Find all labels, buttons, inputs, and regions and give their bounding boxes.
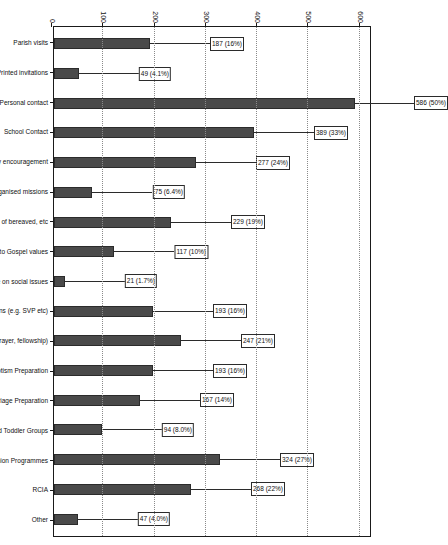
bar[interactable]	[54, 246, 114, 257]
category-tick-mark	[50, 132, 53, 133]
y-axis-tick-mark	[359, 23, 360, 27]
bar-value-callout: 247 (21%)	[181, 334, 275, 348]
bar[interactable]	[54, 335, 181, 346]
bar-value-label: 117 (10%)	[174, 245, 208, 259]
bar-value-callout: 324 (27%)	[220, 453, 314, 467]
bar-value-label: 229 (19%)	[231, 215, 265, 229]
callout-leader-line	[181, 340, 241, 341]
callout-leader-line	[65, 281, 125, 282]
bar-value-callout: 229 (19%)	[171, 215, 265, 229]
category-tick-mark	[50, 460, 53, 461]
category-tick-mark	[50, 72, 53, 73]
y-axis-tick-label: 400	[253, 3, 261, 23]
category-tick-mark	[50, 490, 53, 491]
category-tick-mark	[50, 221, 53, 222]
category-tick: Family encouragement	[0, 147, 53, 177]
bar[interactable]	[54, 424, 102, 435]
bar-value-callout: 193 (16%)	[153, 304, 247, 318]
y-axis-tick-mark	[102, 23, 103, 27]
bar[interactable]	[54, 454, 220, 465]
category-tick-label: Witness to Gospel values	[0, 248, 48, 256]
category-tick-label: Parish visits	[13, 39, 48, 47]
bar[interactable]	[54, 276, 65, 287]
category-tick: Printed invitations	[0, 58, 53, 88]
bar-value-callout: 193 (16%)	[153, 364, 247, 378]
category-tick-label: Family encouragement	[0, 158, 48, 166]
category-tick: Personal contact	[0, 88, 53, 118]
category-tick-mark	[50, 430, 53, 431]
category-tick-label: Small groups (prayer, fellowship)	[0, 337, 48, 345]
category-tick-label: The work of parish organisations (e.g. S…	[0, 307, 48, 315]
bar-value-label: 193 (16%)	[213, 304, 247, 318]
bar[interactable]	[54, 187, 92, 198]
y-axis-tick-mark	[307, 23, 308, 27]
callout-leader-line	[78, 519, 138, 520]
bar-value-label: 193 (16%)	[213, 364, 247, 378]
bar-value-callout: 21 (1.7%)	[65, 274, 157, 288]
category-tick-label: Printed invitations	[0, 69, 48, 77]
bar-value-label: 75 (6.4%)	[152, 185, 184, 199]
category-tick: Parish visits	[0, 28, 53, 58]
callout-leader-line	[355, 103, 415, 104]
category-tick-label: Mother and Toddler Groups	[0, 427, 48, 435]
category-tick-mark	[50, 400, 53, 401]
category-axis: Parish visitsPrinted invitationsPersonal…	[0, 26, 53, 537]
bar-value-label: 586 (50%)	[414, 96, 448, 110]
bar[interactable]	[54, 484, 191, 495]
bar-value-label: 187 (16%)	[210, 37, 244, 51]
category-tick-label: Personal contact	[0, 99, 48, 107]
bar[interactable]	[54, 157, 196, 168]
category-tick: Care of bereaved, etc	[0, 207, 53, 237]
category-tick-mark	[50, 102, 53, 103]
category-tick-label: First Communion Programmes	[0, 457, 48, 465]
category-tick-label: Organised missions	[0, 188, 48, 196]
category-tick: First Communion Programmes	[0, 446, 53, 476]
bar-value-callout: 49 (4.1%)	[79, 67, 171, 81]
bar-value-label: 277 (24%)	[256, 156, 290, 170]
category-tick: RCIA	[0, 475, 53, 505]
category-tick-label: School Contact	[4, 128, 48, 136]
bar-value-callout: 47 (4.0%)	[78, 512, 170, 526]
plot-area: 187 (16%)49 (4.1%)586 (50%)389 (33%)277 …	[54, 27, 370, 536]
gridline	[154, 27, 155, 536]
bar-value-label: 21 (1.7%)	[125, 274, 157, 288]
category-tick-mark	[50, 251, 53, 252]
bar[interactable]	[54, 68, 79, 79]
bar-value-label: 94 (8.0%)	[162, 423, 194, 437]
y-axis-tick-label: 200	[151, 3, 159, 23]
bar[interactable]	[54, 306, 153, 317]
category-tick: Witness to Gospel values	[0, 237, 53, 267]
bar-value-label: 324 (27%)	[280, 453, 314, 467]
callout-leader-line	[79, 73, 139, 74]
bar[interactable]	[54, 395, 140, 406]
category-tick-label: Other	[32, 516, 48, 524]
gridline	[102, 27, 103, 536]
y-axis-tick-label: 100	[99, 3, 107, 23]
callout-leader-line	[150, 43, 210, 44]
y-axis-tick-mark	[205, 23, 206, 27]
category-tick-mark	[50, 341, 53, 342]
category-tick-mark	[50, 520, 53, 521]
plot-frame: 187 (16%)49 (4.1%)586 (50%)389 (33%)277 …	[53, 26, 371, 537]
category-tick: Other	[0, 505, 53, 535]
category-tick-mark	[50, 42, 53, 43]
bar-value-callout: 75 (6.4%)	[92, 185, 184, 199]
y-axis-tick-mark	[256, 23, 257, 27]
category-tick-label: Baptism Preparation	[0, 367, 48, 375]
category-tick: School Contact	[0, 117, 53, 147]
y-axis-tick-label: 600	[356, 3, 364, 23]
bar-value-label: 389 (33%)	[314, 126, 348, 140]
bar[interactable]	[54, 365, 153, 376]
category-tick-label: Marriage Preparation	[0, 397, 48, 405]
category-tick-mark	[50, 192, 53, 193]
category-tick: Marriage Preparation	[0, 386, 53, 416]
callout-leader-line	[140, 400, 200, 401]
y-axis-tick-label: 300	[202, 3, 210, 23]
y-axis-tick-mark	[154, 23, 155, 27]
gridline	[205, 27, 206, 536]
category-tick-mark	[50, 371, 53, 372]
category-tick-label: Care of bereaved, etc	[0, 218, 48, 226]
bar[interactable]	[54, 514, 78, 525]
callout-leader-line	[171, 222, 231, 223]
